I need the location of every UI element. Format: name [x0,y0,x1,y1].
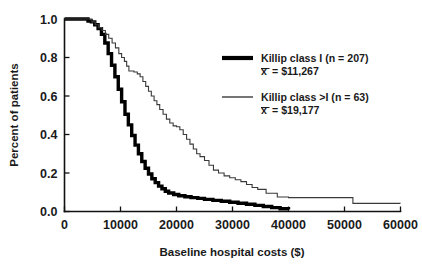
y-tick-label: 0.4 [40,128,57,142]
y-tick-label: 0.8 [40,51,57,65]
plot-area: 0.00.20.40.60.81.0 010000200003000040000… [40,13,418,232]
y-tick-label: 1.0 [40,13,57,27]
x-tick-label: 60000 [383,218,418,232]
y-tick-label: 0.6 [40,90,57,104]
series-killip-class-1 [65,19,289,210]
y-tick-label: 0.0 [40,205,57,219]
legend-mean-value-2: = $19,177 [272,104,320,116]
x-axis-title: Baseline hospital costs ($) [159,246,304,258]
legend-label-killip-class-1: Killip class I (n = 207) [261,52,368,64]
x-tick-label: 20000 [159,218,194,232]
legend: Killip class I (n = 207) x̄ = $11,267 Ki… [222,52,369,116]
survival-curve-chart: 0.00.20.40.60.81.0 010000200003000040000… [0,0,422,272]
legend-mean-value-1: = $11,267 [272,65,319,77]
x-tick-label: 0 [61,218,68,232]
legend-entry-killip-class-1: Killip class I (n = 207) x̄ = $11,267 [222,52,368,77]
legend-mean-symbol-2: x̄ [261,104,267,116]
x-tick-label: 10000 [103,218,138,232]
y-axis-title: Percent of patients [8,63,20,167]
x-tick-labels: 0100002000030000400005000060000 [61,218,418,232]
x-tick-label: 40000 [271,218,306,232]
legend-label-killip-class-gt1: Killip class >I (n = 63) [261,91,369,103]
series-killip-class-gt1 [65,19,401,203]
legend-mean-symbol-1: x̄ [261,65,267,77]
legend-entry-killip-class-gt1: Killip class >I (n = 63) x̄ = $19,177 [222,91,369,116]
x-tick-label: 30000 [215,218,250,232]
y-tick-labels: 0.00.20.40.60.81.0 [40,13,57,220]
data-series-group [65,19,401,210]
y-tick-label: 0.2 [40,167,57,181]
x-tick-label: 50000 [327,218,362,232]
